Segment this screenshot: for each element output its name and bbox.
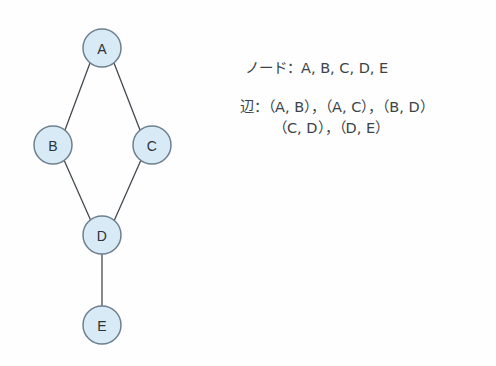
node-a[interactable]: A [83, 29, 121, 67]
node-c-label: C [147, 138, 157, 154]
node-b[interactable]: B [34, 126, 72, 164]
edge-b-d [64, 160, 91, 221]
legend-edges-block: 辺：（A, B），（A, C），（B, D） （C, D），（D, E） [240, 85, 486, 139]
edge-a-c [114, 63, 140, 130]
legend-edges-line-2: （C, D），（D, E） [240, 118, 486, 139]
node-b-label: B [48, 138, 58, 154]
diagram-page: A B C D E ノード：A, B, C, D, E 辺：（A, B），（A,… [0, 0, 496, 366]
edge-c-d [114, 160, 141, 221]
legend-edges-line-1: 辺：（A, B），（A, C），（B, D） [240, 97, 486, 118]
node-a-label: A [97, 41, 107, 57]
node-d-label: D [97, 228, 107, 244]
node-d[interactable]: D [83, 216, 121, 254]
graph-canvas: A B C D E [0, 0, 496, 366]
node-e[interactable]: E [83, 306, 121, 344]
node-e-label: E [97, 318, 107, 334]
legend-panel: ノード：A, B, C, D, E 辺：（A, B），（A, C），（B, D）… [240, 58, 486, 139]
legend-nodes-line: ノード：A, B, C, D, E [245, 58, 486, 79]
edge-group [64, 63, 141, 306]
node-c[interactable]: C [133, 126, 171, 164]
edge-a-b [65, 63, 90, 130]
